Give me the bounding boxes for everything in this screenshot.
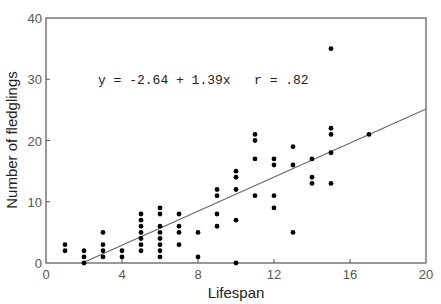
data-point: [177, 224, 182, 229]
plot-frame: [46, 18, 426, 263]
data-point: [158, 254, 163, 259]
regression-equation: y = -2.64 + 1.39x r = .82: [98, 73, 309, 88]
data-point: [215, 187, 220, 192]
data-point: [139, 242, 144, 247]
y-axis-label: Number of fledglings: [3, 71, 20, 209]
data-point: [158, 242, 163, 247]
data-point: [139, 218, 144, 223]
data-point: [367, 132, 372, 137]
data-point: [291, 230, 296, 235]
x-tick-label: 8: [194, 267, 201, 282]
data-point: [139, 248, 144, 253]
data-point: [272, 163, 277, 168]
data-point: [215, 212, 220, 217]
data-point: [139, 230, 144, 235]
data-point: [158, 205, 163, 210]
data-point: [272, 205, 277, 210]
y-axis-ticks: 010203040: [28, 11, 50, 271]
x-tick-label: 4: [118, 267, 125, 282]
data-point: [215, 193, 220, 198]
data-point: [82, 254, 87, 259]
data-point: [234, 169, 239, 174]
data-point: [158, 224, 163, 229]
data-point: [177, 230, 182, 235]
data-point: [253, 132, 258, 137]
data-point: [291, 144, 296, 149]
regression-line: [84, 109, 426, 262]
data-point: [329, 150, 334, 155]
data-point: [101, 254, 106, 259]
data-point: [329, 132, 334, 137]
data-point: [120, 248, 125, 253]
data-point: [272, 156, 277, 161]
x-axis-label: Lifespan: [208, 284, 265, 301]
x-tick-label: 0: [42, 267, 49, 282]
data-point: [329, 126, 334, 131]
data-point: [310, 181, 315, 186]
data-point: [63, 242, 68, 247]
data-point: [234, 175, 239, 180]
data-point: [101, 242, 106, 247]
data-point: [234, 187, 239, 192]
data-point: [158, 212, 163, 217]
y-tick-label: 10: [28, 195, 42, 210]
data-point: [196, 254, 201, 259]
x-tick-label: 16: [343, 267, 357, 282]
data-point: [120, 254, 125, 259]
data-point: [329, 181, 334, 186]
data-point: [234, 218, 239, 223]
data-point: [158, 230, 163, 235]
y-tick-label: 20: [28, 134, 42, 149]
x-tick-label: 12: [267, 267, 281, 282]
data-point: [82, 248, 87, 253]
scatter-chart: 010203040 048121620 y = -2.64 + 1.39x r …: [0, 0, 441, 304]
data-point: [291, 163, 296, 168]
data-point: [139, 236, 144, 241]
data-point: [177, 242, 182, 247]
data-point: [82, 261, 87, 266]
data-point: [63, 248, 68, 253]
data-point: [158, 236, 163, 241]
y-tick-label: 30: [28, 72, 42, 87]
data-point: [253, 138, 258, 143]
data-point: [101, 248, 106, 253]
data-point: [177, 212, 182, 217]
data-point: [139, 224, 144, 229]
data-point: [272, 193, 277, 198]
data-point: [310, 175, 315, 180]
data-point: [196, 230, 201, 235]
data-point: [253, 156, 258, 161]
data-point: [310, 156, 315, 161]
data-point: [234, 261, 239, 266]
data-point: [329, 46, 334, 51]
data-point: [158, 248, 163, 253]
y-tick-label: 0: [35, 256, 42, 271]
data-point: [253, 193, 258, 198]
data-point: [215, 224, 220, 229]
data-point: [101, 230, 106, 235]
y-tick-label: 40: [28, 11, 42, 26]
data-point: [139, 212, 144, 217]
x-tick-label: 20: [419, 267, 433, 282]
